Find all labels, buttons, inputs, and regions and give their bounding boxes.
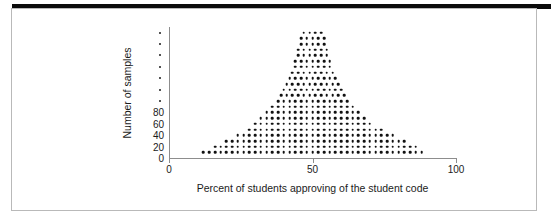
data-dot	[346, 100, 349, 103]
data-dot	[271, 134, 274, 137]
y-tick-dot	[159, 43, 161, 45]
data-dot	[265, 117, 268, 120]
data-dot	[363, 117, 366, 120]
data-dot	[328, 128, 331, 131]
data-dot	[283, 100, 286, 103]
data-dot	[317, 88, 320, 91]
data-dot	[386, 140, 389, 143]
data-dot	[334, 117, 337, 120]
data-dot	[300, 128, 303, 131]
data-dot	[254, 123, 257, 126]
data-dot	[357, 117, 360, 120]
data-dot	[305, 111, 308, 114]
data-dot	[300, 77, 303, 80]
y-tick-label: 80	[142, 107, 164, 118]
data-dot	[288, 134, 291, 137]
data-dot	[294, 88, 297, 91]
y-tick-dot	[159, 77, 161, 79]
data-dot	[277, 145, 280, 148]
data-dot	[346, 140, 349, 143]
x-tick-mark	[456, 158, 457, 163]
data-dot	[320, 71, 323, 74]
data-dot	[369, 145, 372, 148]
data-dot	[314, 31, 317, 34]
data-dot	[317, 66, 320, 69]
data-dot	[237, 145, 240, 148]
data-dot	[340, 128, 343, 131]
x-tick-label: 0	[166, 164, 172, 175]
data-dot	[328, 117, 331, 120]
data-dot	[305, 43, 308, 46]
data-dot	[328, 134, 331, 137]
data-dot	[328, 88, 331, 91]
data-dot	[328, 151, 331, 154]
data-dot	[283, 105, 286, 108]
data-dot	[323, 145, 326, 148]
data-dot	[323, 111, 326, 114]
data-dot	[297, 54, 300, 57]
data-dot	[294, 128, 297, 131]
data-dot	[271, 151, 274, 154]
data-dot	[351, 117, 354, 120]
data-dot	[380, 145, 383, 148]
data-dot	[314, 54, 317, 57]
data-dot	[225, 140, 228, 143]
data-dot	[248, 151, 251, 154]
data-dot	[283, 111, 286, 114]
data-dot	[311, 145, 314, 148]
data-dot	[363, 123, 366, 126]
data-dot	[323, 43, 326, 46]
data-dot	[363, 140, 366, 143]
data-dot	[346, 145, 349, 148]
data-dot	[305, 88, 308, 91]
data-dot	[237, 134, 240, 137]
data-dot	[314, 94, 317, 97]
data-dot	[303, 71, 306, 74]
data-dot	[334, 88, 337, 91]
data-dot	[311, 77, 314, 80]
data-dot	[320, 31, 323, 34]
data-dot	[300, 43, 303, 46]
data-dot	[294, 105, 297, 108]
data-dot	[334, 111, 337, 114]
data-dot	[254, 145, 257, 148]
data-dot	[317, 100, 320, 103]
data-dot	[291, 83, 294, 86]
data-dot	[409, 151, 412, 154]
data-dot	[260, 123, 263, 126]
data-dot	[311, 128, 314, 131]
data-dot	[305, 128, 308, 131]
data-dot	[314, 83, 317, 86]
data-dot	[303, 54, 306, 57]
data-dot	[328, 60, 331, 63]
data-dot	[288, 151, 291, 154]
data-dot	[300, 117, 303, 120]
data-dot	[242, 151, 245, 154]
data-dot	[334, 134, 337, 137]
data-dot	[328, 77, 331, 80]
data-dot	[317, 145, 320, 148]
data-dot	[294, 140, 297, 143]
data-dot	[351, 111, 354, 114]
data-dot	[403, 145, 406, 148]
data-dot	[403, 151, 406, 154]
data-dot	[311, 117, 314, 120]
data-dot	[351, 105, 354, 108]
data-dot	[346, 128, 349, 131]
y-tick-dot	[159, 66, 161, 68]
x-tick-label: 50	[307, 164, 318, 175]
data-dot	[317, 117, 320, 120]
y-axis-title: Number of samples	[121, 47, 133, 138]
data-dot	[303, 94, 306, 97]
data-dot	[294, 100, 297, 103]
y-tick-label: 0	[142, 153, 164, 164]
data-dot	[317, 60, 320, 63]
data-dot	[340, 134, 343, 137]
data-dot	[311, 88, 314, 91]
data-dot	[328, 66, 331, 69]
data-dot	[265, 151, 268, 154]
data-dot	[265, 123, 268, 126]
data-dot	[363, 134, 366, 137]
data-dot	[374, 128, 377, 131]
y-tick-dot	[159, 89, 161, 91]
